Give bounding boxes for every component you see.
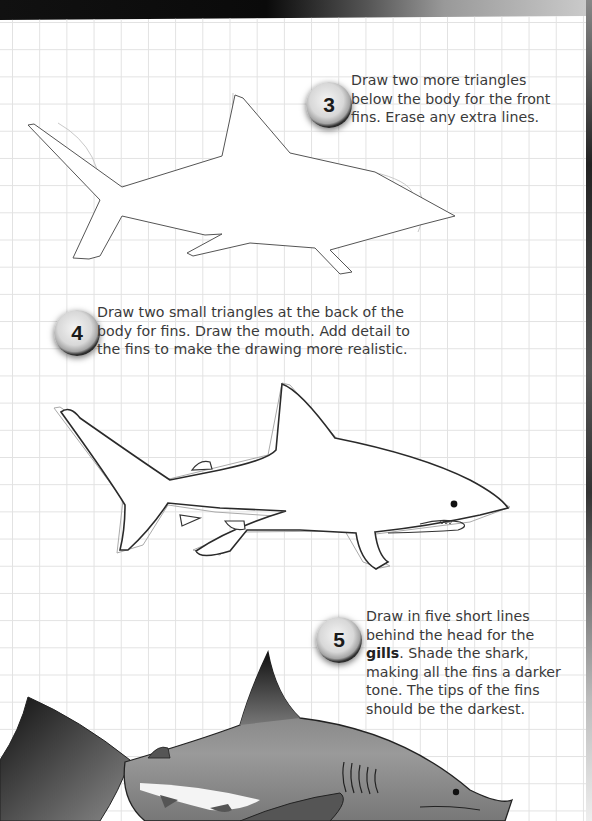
shark-shaded-step-5 (0, 0, 592, 821)
